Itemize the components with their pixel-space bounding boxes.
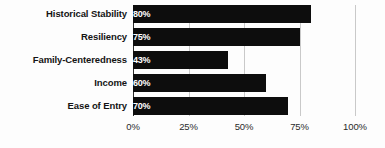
tick-label-100: 100% — [343, 121, 367, 132]
plot-area: 80% 75% 43% 60% 70% — [133, 5, 355, 116]
bar-value-label: 43% — [133, 51, 228, 69]
category-label: Income — [0, 74, 127, 92]
category-label: Ease of Entry — [0, 97, 127, 115]
category-axis-labels: Historical Stability Resiliency Family-C… — [0, 5, 127, 116]
bar-chart: Historical Stability Resiliency Family-C… — [0, 0, 385, 148]
tick-label-25: 25% — [179, 121, 198, 132]
bar-group: 80% 75% 43% 60% 70% — [133, 5, 355, 116]
category-label: Resiliency — [0, 28, 127, 46]
tick-label-75: 75% — [290, 121, 309, 132]
category-label: Historical Stability — [0, 5, 127, 23]
bar-value-label: 75% — [133, 28, 300, 46]
category-label: Family-Centeredness — [0, 51, 127, 69]
tick-label-0: 0% — [126, 121, 140, 132]
tick-label-50: 50% — [235, 121, 254, 132]
value-axis-labels: 0% 25% 50% 75% 100% — [133, 121, 355, 137]
bar-value-label: 80% — [133, 5, 311, 23]
bar-value-label: 70% — [133, 97, 288, 115]
gridline-100 — [355, 5, 356, 116]
bar-value-label: 60% — [133, 74, 266, 92]
